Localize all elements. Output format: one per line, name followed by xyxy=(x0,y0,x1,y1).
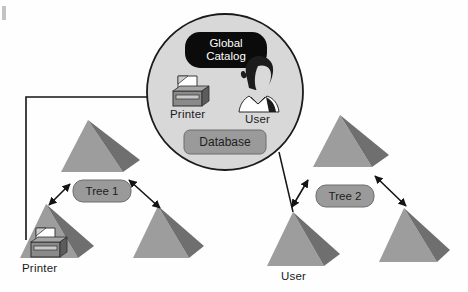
tree1-label: Tree 1 xyxy=(73,180,131,202)
diagram-canvas: Global Catalog Database Printer User Tre… xyxy=(0,0,468,292)
tree2-right-pyramid xyxy=(379,208,450,262)
global-catalog-label: Global Catalog xyxy=(185,32,267,68)
scan-artifact-mark xyxy=(2,6,6,20)
global-catalog-line1: Global xyxy=(209,37,242,50)
tree2-root-pyramid xyxy=(313,115,389,167)
arrow-tree2-root-to-left xyxy=(292,180,308,207)
tree2-left-node-label: User xyxy=(281,270,306,282)
circle-user-label: User xyxy=(245,113,270,125)
tree2-left-pyramid xyxy=(267,212,340,266)
arrow-tree2-root-to-right xyxy=(375,176,406,206)
database-label: Database xyxy=(184,130,266,154)
tree1-left-node-label: Printer xyxy=(22,262,57,274)
arrow-tree1-root-to-left xyxy=(49,184,70,205)
tree1-root-pyramid xyxy=(61,120,140,172)
connector-catalog-to-user xyxy=(279,152,293,212)
global-catalog-line2: Catalog xyxy=(206,50,246,63)
tree1-right-pyramid xyxy=(133,206,204,258)
circle-printer-label: Printer xyxy=(170,108,205,120)
tree2-label: Tree 2 xyxy=(316,185,374,207)
arrow-tree1-root-to-right xyxy=(129,180,160,208)
